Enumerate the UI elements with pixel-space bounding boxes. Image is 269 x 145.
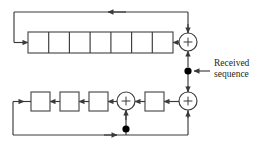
adder-top <box>179 33 197 51</box>
node-bottom-feedback <box>122 125 129 132</box>
adder-bottom-mid <box>117 92 135 110</box>
top-shift-register-body <box>28 32 173 53</box>
circuit-diagram: Received sequence <box>0 0 269 145</box>
received-sequence-line1: Received <box>214 58 249 69</box>
bottom-box-3 <box>89 92 108 111</box>
bottom-box-4 <box>145 92 164 111</box>
bottom-box-1 <box>31 92 50 111</box>
node-received-sequence <box>184 67 191 74</box>
bottom-box-2 <box>60 92 79 111</box>
received-sequence-line2: sequence <box>214 69 249 80</box>
received-sequence-label: Received sequence <box>214 58 249 80</box>
adder-bottom-right <box>179 92 197 110</box>
